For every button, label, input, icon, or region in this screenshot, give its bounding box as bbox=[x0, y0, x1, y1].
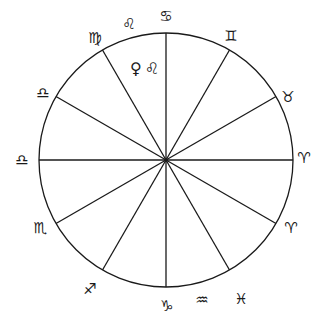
aries-right-icon: ♈︎ bbox=[297, 151, 310, 166]
house-wheel bbox=[0, 0, 318, 327]
aquarius-icon: ♒︎ bbox=[195, 293, 208, 308]
scorpio-icon: ♏︎ bbox=[33, 221, 46, 236]
cancer-icon: ♋︎ bbox=[159, 9, 172, 24]
libra-left-icon: ♎︎ bbox=[15, 153, 28, 168]
sagittarius-icon: ♐︎ bbox=[83, 282, 96, 297]
capricorn-icon: ♑︎ bbox=[160, 299, 173, 314]
libra-upper-icon: ♎︎ bbox=[36, 86, 49, 101]
pisces-icon: ♓︎ bbox=[234, 292, 247, 307]
gemini-icon: ♊︎ bbox=[224, 29, 237, 44]
leo-icon: ♌︎ bbox=[122, 17, 135, 32]
center-point bbox=[164, 158, 168, 162]
virgo-icon: ♍︎ bbox=[88, 31, 101, 46]
taurus-icon: ♉︎ bbox=[281, 90, 294, 105]
aries-lower-icon: ♈︎ bbox=[284, 221, 297, 236]
venus-in-leo-label: ♀♌ bbox=[130, 61, 162, 77]
